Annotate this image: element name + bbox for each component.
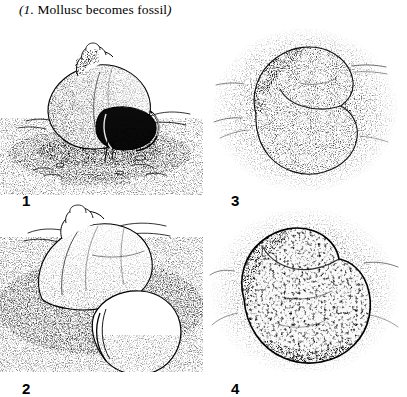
- foreground-grains: [60, 173, 130, 185]
- panel-label-2: 2: [22, 381, 30, 396]
- panel-label-4: 4: [231, 381, 239, 396]
- figure-panel-grid: 1 3 2 4: [0, 18, 407, 372]
- panel-shell-buried-in-sediment: [204, 18, 407, 195]
- panel-fossil-in-rock: [204, 195, 407, 372]
- fossil-in-rock-illustration: [204, 195, 407, 372]
- panel-shell-partly-covered: [0, 195, 203, 372]
- caption-close-paren: ): [167, 2, 172, 17]
- caption-text: Mollusc becomes fossil: [37, 2, 167, 17]
- shell-buried-illustration: [204, 18, 407, 195]
- shell-on-seafloor-illustration: [0, 18, 203, 195]
- panel-label-3: 3: [231, 193, 239, 208]
- panel-label-1: 1: [22, 193, 30, 208]
- caption-number: (1.: [19, 2, 34, 17]
- shell-partly-covered-illustration: [0, 195, 203, 372]
- panel-shell-on-seafloor: [0, 18, 203, 195]
- figure-caption: (1. Mollusc becomes fossil): [19, 1, 172, 18]
